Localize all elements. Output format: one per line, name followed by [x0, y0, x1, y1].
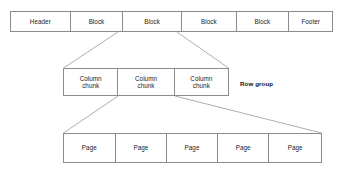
file-blocks-row: Header Block Block Block Block Footer: [10, 11, 333, 32]
block-cell-block-4: Block: [237, 12, 290, 31]
block-cell-label: Footer: [301, 18, 320, 25]
pages-row: Page Page Page Page Page: [63, 133, 322, 163]
block-cell-label: Block: [89, 18, 105, 25]
column-chunk-label-line1: Column: [80, 75, 102, 82]
block-cell-block-2: Block: [123, 12, 182, 31]
page-cell-label: Page: [288, 144, 303, 151]
column-chunks-row: Column chunk Column chunk Column chunk: [63, 68, 229, 96]
column-chunk-label-line2: chunk: [80, 82, 102, 89]
block-cell-footer: Footer: [289, 12, 332, 31]
page-cell-2: Page: [116, 134, 168, 162]
column-chunk-label-line2: chunk: [135, 82, 157, 89]
column-chunk-label-line1: Column: [190, 75, 212, 82]
block-cell-label: Block: [255, 18, 271, 25]
block-cell-label: Header: [30, 18, 51, 25]
block-cell-label: Block: [144, 18, 160, 25]
block-cell-label: Block: [201, 18, 217, 25]
page-cell-4: Page: [218, 134, 270, 162]
column-chunk-label-line1: Column: [135, 75, 157, 82]
page-cell-5: Page: [269, 134, 321, 162]
connector-chunk-to-pages-left: [64, 96, 119, 133]
page-cell-label: Page: [82, 144, 97, 151]
connector-block-to-chunks-left: [64, 32, 119, 68]
row-group-annotation: Row group: [240, 80, 273, 87]
block-cell-header: Header: [11, 12, 71, 31]
column-chunk-cell-2: Column chunk: [118, 69, 174, 95]
connector-chunk-to-pages-right: [175, 96, 322, 133]
file-layout-diagram: Header Block Block Block Block Footer Co…: [0, 0, 344, 171]
column-chunk-label-line2: chunk: [190, 82, 212, 89]
page-cell-3: Page: [167, 134, 218, 162]
page-cell-label: Page: [185, 144, 200, 151]
connector-block-to-chunks-right: [177, 32, 229, 68]
block-cell-block-1: Block: [71, 12, 124, 31]
page-cell-label: Page: [133, 144, 148, 151]
column-chunk-cell-3: Column chunk: [175, 69, 228, 95]
column-chunk-cell-1: Column chunk: [64, 69, 118, 95]
page-cell-1: Page: [64, 134, 116, 162]
page-cell-label: Page: [236, 144, 251, 151]
block-cell-block-3: Block: [182, 12, 237, 31]
